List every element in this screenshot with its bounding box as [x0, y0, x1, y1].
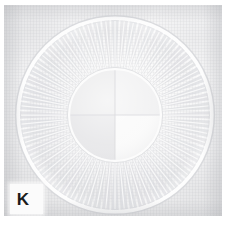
figure-label: K	[12, 189, 34, 211]
fabric-photo: K	[4, 5, 222, 216]
figure-panel: K	[0, 0, 230, 234]
inner-disc	[67, 67, 163, 163]
